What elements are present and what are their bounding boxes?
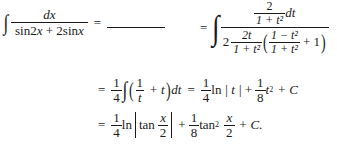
den-1-plus-t2: 1 + t² xyxy=(269,42,300,56)
integrand-denominator: sin2x + 2sinx xyxy=(11,22,88,38)
x-over-2: x 2 xyxy=(224,111,235,139)
problem-integral: ∫ dx sin2x + 2sinx = xyxy=(3,8,165,37)
num: 1 xyxy=(255,76,266,90)
integrand-numerator: dx xyxy=(41,8,57,22)
num-2t: 2t xyxy=(240,29,253,42)
den: 2 xyxy=(224,125,235,140)
ln: ln xyxy=(122,117,132,133)
one-over-t: 1 t xyxy=(135,76,146,104)
dt: dt xyxy=(285,6,295,20)
den-1-plus-t2: 1 + t² xyxy=(231,42,262,56)
equals-sign: = xyxy=(92,82,111,98)
den: t xyxy=(136,90,144,105)
num: 1 xyxy=(135,76,146,90)
num-1-minus-t2: 1 − t² xyxy=(269,29,300,42)
num: 1 xyxy=(189,111,200,125)
den: 8 xyxy=(189,125,200,140)
num: 1 xyxy=(111,111,122,125)
final-answer: = 1 4 ln tan x 2 + 1 8 tan2 x 2 + C. xyxy=(92,111,263,139)
integral-sign: ∫ xyxy=(122,79,127,101)
equals-sign: = xyxy=(196,20,211,36)
x-over-2: x 2 xyxy=(158,111,169,139)
substitution-step: = ∫ 2 1 + t² dt 2 2t 1 + t² ( 1 − t² 1 +… xyxy=(196,0,329,55)
equals-sign: = xyxy=(181,82,200,98)
coeff-one-eighth: 1 8 xyxy=(255,76,266,104)
abs-t: | t | xyxy=(224,82,241,98)
plus-c: + C. xyxy=(239,117,263,133)
right-paren: ) xyxy=(166,80,171,100)
tan: tan xyxy=(199,117,215,133)
den: 4 xyxy=(201,90,212,105)
plus-one: + 1 xyxy=(303,35,320,49)
den: 4 xyxy=(111,90,122,105)
left-paren: ( xyxy=(129,80,134,100)
den: 8 xyxy=(255,90,266,105)
dt: dt xyxy=(171,82,181,98)
equals-sign: = xyxy=(92,117,111,133)
plus: + xyxy=(245,82,252,98)
integrand-fraction: dx sin2x + 2sinx xyxy=(11,8,88,37)
coeff-one-quarter: 1 4 xyxy=(111,76,122,104)
substitution-numerator: 2 1 + t² dt xyxy=(252,0,297,27)
integral-sign-large: ∫ xyxy=(212,11,219,45)
abs-bar-left xyxy=(135,112,136,138)
equals-sign: = xyxy=(88,15,107,31)
plus-c: + C xyxy=(277,82,298,98)
den: 2 xyxy=(158,125,169,140)
tan: tan xyxy=(139,117,155,133)
coeff-one-eighth: 1 8 xyxy=(189,111,200,139)
num: x xyxy=(224,111,234,125)
coeff-one-quarter: 1 4 xyxy=(201,76,212,104)
num-2: 2 xyxy=(265,0,275,13)
num: x xyxy=(158,111,168,125)
coeff-2: 2 xyxy=(223,35,230,49)
substitution-fraction: 2 1 + t² dt 2 2t 1 + t² ( 1 − t² 1 + t² … xyxy=(221,0,329,55)
substitution-denominator: 2 2t 1 + t² ( 1 − t² 1 + t² + 1 ) xyxy=(221,27,329,55)
den: 4 xyxy=(111,125,122,140)
simplified-step: = 1 4 ∫ ( 1 t + t ) dt = 1 4 ln | t | + … xyxy=(92,76,298,104)
right-paren: ) xyxy=(321,32,326,52)
plus-t: + t xyxy=(149,82,165,98)
abs-bar-right xyxy=(171,112,172,138)
left-paren: ( xyxy=(263,32,268,52)
answer-blank[interactable] xyxy=(107,27,165,28)
num: 1 xyxy=(111,76,122,90)
den-1-plus-t2: 1 + t² xyxy=(254,13,285,27)
num: 1 xyxy=(201,76,212,90)
plus: + xyxy=(178,117,185,133)
ln: ln xyxy=(211,82,221,98)
coeff-one-quarter: 1 4 xyxy=(111,111,122,139)
integral-sign: ∫ xyxy=(4,12,9,34)
